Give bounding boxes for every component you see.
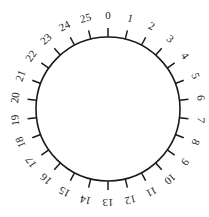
tick-mark xyxy=(167,150,174,155)
tick-label: 8 xyxy=(189,138,202,148)
tick-mark xyxy=(179,99,188,100)
tick-label: 24 xyxy=(57,18,73,34)
tick-label: 22 xyxy=(23,48,39,64)
tick-label: 13 xyxy=(102,197,114,209)
dial-ring xyxy=(36,37,180,181)
tick-mark xyxy=(32,80,40,83)
tick-mark xyxy=(179,118,188,119)
tick-mark xyxy=(175,135,183,138)
tick-labels: 0123456789101112131415161718192021222324… xyxy=(8,9,208,209)
tick-label: 19 xyxy=(8,114,21,127)
tick-label: 7 xyxy=(195,117,208,124)
tick-label: 0 xyxy=(105,9,111,21)
tick-label: 9 xyxy=(179,157,192,169)
tick-mark xyxy=(41,150,48,155)
tick-mark xyxy=(89,179,91,188)
tick-label: 3 xyxy=(164,32,176,45)
tick-label: 20 xyxy=(8,91,21,104)
tick-label: 18 xyxy=(12,135,27,150)
tick-label: 10 xyxy=(162,171,179,188)
tick-mark xyxy=(141,37,145,45)
tick-mark xyxy=(28,118,37,119)
tick-mark xyxy=(89,30,91,39)
tick-label: 16 xyxy=(37,171,54,188)
tick-label: 5 xyxy=(189,71,202,81)
tick-mark xyxy=(125,30,127,39)
tick-mark xyxy=(32,135,40,138)
tick-label: 1 xyxy=(126,11,134,24)
dial-diagram: 0123456789101112131415161718192021222324… xyxy=(0,0,209,217)
tick-label: 11 xyxy=(144,184,159,200)
tick-label: 15 xyxy=(56,184,72,200)
tick-mark xyxy=(54,48,60,55)
tick-mark xyxy=(167,63,174,68)
tick-mark xyxy=(54,163,60,170)
tick-mark xyxy=(125,179,127,188)
tick-label: 6 xyxy=(195,94,208,101)
tick-label: 25 xyxy=(79,10,93,24)
tick-label: 4 xyxy=(179,50,192,62)
tick-mark xyxy=(41,63,48,68)
tick-label: 21 xyxy=(13,68,28,83)
tick-mark xyxy=(175,80,183,83)
tick-label: 12 xyxy=(124,193,138,207)
tick-label: 17 xyxy=(22,154,38,170)
tick-mark xyxy=(70,37,74,45)
tick-mark xyxy=(141,173,145,181)
dial-svg: 0123456789101112131415161718192021222324… xyxy=(0,0,209,217)
tick-mark xyxy=(156,163,162,170)
tick-label: 2 xyxy=(146,19,156,32)
tick-marks xyxy=(28,28,189,190)
tick-mark xyxy=(28,99,37,100)
tick-mark xyxy=(156,48,162,55)
tick-label: 23 xyxy=(38,30,55,47)
tick-label: 14 xyxy=(78,193,92,207)
tick-mark xyxy=(70,173,74,181)
